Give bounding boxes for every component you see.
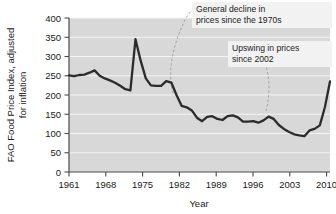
y-tick-label: 250 [45, 70, 61, 81]
y-axis-tickmarks [65, 18, 70, 172]
annotation-upswing-line2: since 2002 [232, 54, 274, 64]
annotation-general-decline-line1: General decline in [196, 4, 265, 14]
x-tick-label: 1989 [206, 179, 227, 190]
y-tick-label: 100 [45, 128, 61, 139]
x-tick-label: 2010 [316, 179, 336, 190]
x-axis-title: Year [189, 198, 208, 209]
y-tick-label: 300 [45, 51, 61, 62]
annotation-upswing-line1: Upswing in prices [232, 43, 299, 53]
y-tick-label: 350 [45, 32, 61, 43]
annotation-upswing: Upswing in prices since 2002 [228, 41, 332, 67]
x-axis-tickmarks [69, 172, 327, 177]
y-axis-title: FAO Food Price Index, adjusted for infla… [5, 28, 28, 163]
x-tick-label: 1982 [169, 179, 190, 190]
annotation-general-decline-line2: prices since the 1970s [196, 15, 282, 25]
x-tick-label: 1975 [132, 179, 153, 190]
x-tick-label: 1968 [95, 179, 116, 190]
y-axis-title-line1: FAO Food Price Index, adjusted [5, 28, 16, 163]
x-tick-label: 1961 [58, 179, 79, 190]
chart-figure: 400 350 300 250 200 150 100 50 0 1961 19… [0, 0, 336, 214]
x-axis-tick-labels: 1961 1968 1975 1982 1989 1996 2003 2010 [58, 179, 336, 190]
x-tick-label: 2003 [279, 179, 300, 190]
y-tick-label: 50 [50, 147, 61, 158]
y-tick-label: 400 [45, 13, 61, 24]
y-tick-label: 0 [56, 167, 61, 178]
y-axis-tick-labels: 400 350 300 250 200 150 100 50 0 [45, 13, 61, 178]
y-tick-label: 150 [45, 109, 61, 120]
y-tick-label: 200 [45, 90, 61, 101]
annotation-general-decline: General decline in prices since the 1970… [192, 2, 332, 28]
y-axis-title-line2: for inflation [17, 72, 28, 118]
x-tick-label: 1996 [242, 179, 263, 190]
fao-food-price-index-line-chart: 400 350 300 250 200 150 100 50 0 1961 19… [0, 0, 336, 214]
